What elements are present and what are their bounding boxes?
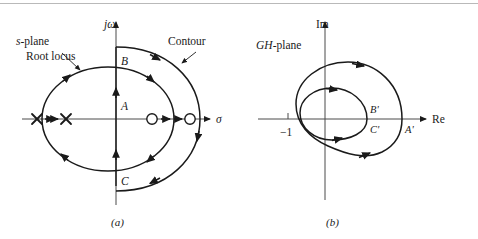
- point-c-prime-label: C': [370, 124, 380, 135]
- root-locus-arrow-upper-right: [147, 76, 154, 82]
- point-c-label: C: [121, 175, 129, 187]
- s-plane-label-rest: -plane: [20, 35, 49, 48]
- gh-plane-label-italic: GH: [256, 39, 273, 51]
- contour-label: Contour: [168, 35, 206, 47]
- sigma-axis-label: σ: [216, 113, 223, 125]
- re-axis-label: Re: [432, 113, 445, 125]
- contour-leader: [182, 52, 196, 63]
- root-locus-arrow-upper-left: [63, 75, 70, 81]
- zero-marker-outer: [185, 114, 195, 124]
- nyquist-inner-loop: [300, 88, 367, 140]
- caption-a: (a): [111, 216, 124, 229]
- im-axis-label: Im: [316, 18, 329, 30]
- panel-b-gh-plane: GH-plane Im Re −1 B' C' A' (b): [240, 0, 478, 239]
- minus-one-label: −1: [280, 126, 292, 138]
- jomega-axis-label: jω: [102, 18, 115, 31]
- point-a-label: A: [120, 100, 129, 112]
- zero-marker-inner: [147, 114, 157, 124]
- point-a-prime-label: A': [404, 124, 414, 135]
- caption-b: (b): [326, 216, 339, 229]
- nyquist-outer-loop: [296, 62, 402, 156]
- contour-arrow-right: [197, 131, 199, 141]
- root-locus-arrow-lower-right: [147, 156, 154, 162]
- gh-plane-label: GH-plane: [256, 39, 301, 52]
- gh-plane-label-rest: -plane: [273, 39, 302, 52]
- figure-root: s-plane Root locus Contour jω σ B A C (a…: [0, 0, 478, 239]
- s-plane-label: s-plane: [16, 35, 49, 48]
- point-b-prime-label: B': [370, 104, 379, 115]
- point-b-label: B: [121, 55, 128, 67]
- panel-a-s-plane: s-plane Root locus Contour jω σ B A C (a…: [0, 0, 240, 239]
- root-locus-label: Root locus: [26, 50, 76, 62]
